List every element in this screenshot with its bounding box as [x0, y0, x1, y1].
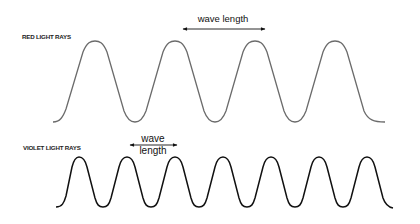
red-wave	[53, 41, 385, 122]
red-light-label: RED LIGHT RAYS	[22, 33, 71, 40]
red-wavelength-label: wave length	[197, 13, 249, 24]
red-wavelength-indicator: wave length	[183, 13, 265, 29]
light-wavelength-diagram: RED LIGHT RAYS wave length VIOLET LIGHT …	[0, 0, 420, 224]
red-light-section: RED LIGHT RAYS wave length	[22, 13, 385, 122]
violet-light-section: VIOLET LIGHT RAYS wave length	[23, 133, 393, 208]
violet-wavelength-label-line2: length	[139, 145, 166, 156]
violet-wave	[56, 157, 393, 208]
violet-wavelength-indicator: wave length	[130, 133, 177, 156]
violet-light-label: VIOLET LIGHT RAYS	[23, 144, 81, 151]
violet-wavelength-label-line1: wave	[140, 133, 165, 144]
